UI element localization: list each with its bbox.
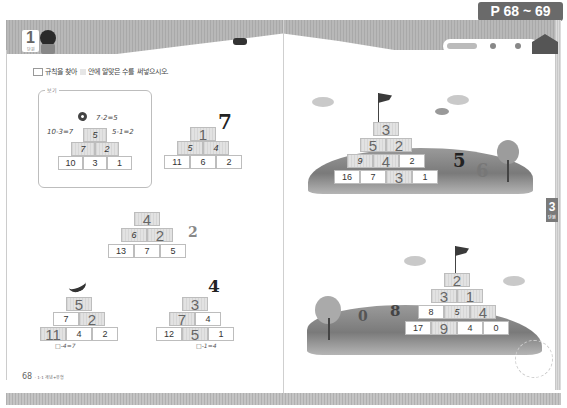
pyramid-cell: 7 bbox=[71, 142, 95, 156]
pyramid-cell: 5 bbox=[182, 327, 208, 341]
stamp-watermark-icon bbox=[515, 340, 553, 378]
progress-filled-dots bbox=[447, 43, 477, 49]
decorative-number-four: 4 bbox=[208, 276, 220, 296]
pyramid-cell: 5 bbox=[160, 244, 186, 258]
pyramid-cell: 6 bbox=[121, 228, 147, 242]
pyramid-cell: 13 bbox=[108, 244, 134, 258]
pyramid-cell: 11 bbox=[40, 327, 66, 341]
pyramid-cell: 10 bbox=[58, 156, 83, 170]
decorative-banana-icon bbox=[66, 275, 88, 294]
progress-dot-icon bbox=[490, 43, 496, 49]
decorative-number-eight: 8 bbox=[390, 302, 400, 320]
book-spine bbox=[283, 20, 284, 400]
book-label: · 1-1 개념+유형 bbox=[35, 375, 65, 380]
pyramid-cell: 2 bbox=[95, 142, 119, 156]
tree-trunk bbox=[328, 318, 330, 340]
pyramid-cell: 11 bbox=[164, 155, 190, 169]
page-number-value: 68 bbox=[22, 372, 32, 381]
problem-icon bbox=[33, 68, 43, 76]
pyramid-cell: 3 bbox=[83, 156, 107, 170]
pyramid-cell: 2 bbox=[147, 228, 173, 242]
pyramid-cell: 5 bbox=[177, 141, 203, 155]
progress-dot-icon bbox=[515, 43, 521, 49]
pyramid-cell: 5 bbox=[83, 128, 107, 142]
annotation-top: 7-2=5 bbox=[96, 114, 118, 122]
pyramid-cell: 4 bbox=[66, 327, 92, 341]
pyramid-cell: 9 bbox=[431, 321, 457, 335]
pyramid-cell: 8 bbox=[418, 305, 444, 319]
instruction-text-after: 안에 알맞은 수를 써넣으시오. bbox=[88, 68, 169, 76]
pyramid-cell: 2 bbox=[386, 138, 412, 152]
hint-equation: □-1=4 bbox=[196, 342, 217, 349]
decorative-number-seven: 7 bbox=[218, 110, 232, 134]
unit-tab: 1 단원 bbox=[22, 30, 39, 52]
decorative-number-five: 5 bbox=[453, 150, 466, 171]
pyramid-cell: 3 bbox=[373, 122, 399, 136]
cloud-icon bbox=[447, 95, 469, 105]
pyramid-cell: 4 bbox=[134, 212, 160, 226]
pyramid-cell: 4 bbox=[203, 141, 229, 155]
flag-icon bbox=[378, 93, 392, 103]
pyramid-cell: 9 bbox=[347, 154, 373, 168]
pyramid-cell: 1 bbox=[208, 327, 234, 341]
pyramid-cell: 2 bbox=[444, 273, 470, 287]
pyramid-cell: 4 bbox=[457, 321, 483, 335]
pyramid-cell: 2 bbox=[79, 312, 105, 326]
pyramid-cell: 3 bbox=[182, 297, 208, 311]
example-label: 보기 bbox=[45, 86, 59, 93]
pyramid-cell: 16 bbox=[334, 170, 360, 184]
flag-icon bbox=[455, 246, 469, 256]
car-icon bbox=[233, 38, 247, 45]
pyramid-cell: 5 bbox=[360, 138, 386, 152]
bottom-band bbox=[6, 393, 561, 405]
pyramid-cell: 7 bbox=[169, 312, 195, 326]
decorative-number-zero: 0 bbox=[358, 308, 368, 324]
pyramid-cell: 17 bbox=[405, 321, 431, 335]
chapter-number: 3 bbox=[549, 200, 556, 214]
character-body-icon bbox=[41, 44, 55, 54]
pyramid-cell: 4 bbox=[373, 154, 399, 168]
pyramid-cell: 3 bbox=[431, 289, 457, 303]
pyramid-cell: 2 bbox=[399, 154, 425, 168]
left-page-edge bbox=[6, 50, 7, 380]
tree-trunk bbox=[507, 160, 509, 182]
unit-number: 1 bbox=[22, 30, 39, 46]
pyramid-cell: 5 bbox=[66, 297, 92, 311]
chapter-label: 단원 bbox=[546, 216, 558, 220]
pyramid-cell: 3 bbox=[386, 170, 412, 184]
cloud-icon bbox=[503, 276, 525, 286]
decorative-number-six: 6 bbox=[476, 160, 489, 181]
pyramid-cell: 1 bbox=[457, 289, 483, 303]
annotation-left: 10-3=7 bbox=[47, 128, 73, 136]
pyramid-cell: 6 bbox=[190, 155, 216, 169]
pyramid-cell: 0 bbox=[483, 321, 509, 335]
annotation-right: 5-1=2 bbox=[112, 128, 134, 136]
cloud-icon bbox=[312, 97, 334, 107]
pyramid-cell: 2 bbox=[216, 155, 242, 169]
bird-icon bbox=[435, 108, 449, 115]
instruction: 규칙을 찾아 안에 알맞은 수를 써넣으시오. bbox=[33, 66, 169, 76]
pyramid-cell: 1 bbox=[412, 170, 438, 184]
pyramid-cell: 7 bbox=[134, 244, 160, 258]
pyramid-cell: 1 bbox=[107, 156, 132, 170]
pyramid-cell: 12 bbox=[156, 327, 182, 341]
pyramid-cell: 1 bbox=[190, 127, 216, 141]
blank-box-icon bbox=[80, 69, 86, 75]
page-range-badge: P 68 ~ 69 bbox=[478, 2, 563, 21]
pyramid-cell: 2 bbox=[92, 327, 118, 341]
hint-equation: □-4=7 bbox=[55, 342, 76, 349]
decorative-number-two: 2 bbox=[188, 224, 198, 240]
unit-label: 단원 bbox=[22, 46, 39, 52]
pyramid-cell: 5 bbox=[444, 305, 470, 319]
pyramid-cell: 4 bbox=[195, 312, 221, 326]
page-number: 68 · 1-1 개념+유형 bbox=[22, 372, 64, 381]
instruction-text-before: 규칙을 찾아 bbox=[45, 68, 77, 76]
chapter-side-tab[interactable]: 3 단원 bbox=[546, 198, 558, 222]
pyramid-cell: 7 bbox=[53, 312, 79, 326]
cloud-icon bbox=[404, 256, 426, 266]
pyramid-cell: 4 bbox=[470, 305, 496, 319]
pyramid-cell: 7 bbox=[360, 170, 386, 184]
